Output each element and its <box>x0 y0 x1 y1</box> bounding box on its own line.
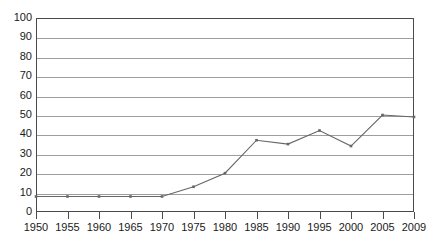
x-tick-mark <box>162 212 163 219</box>
x-tick-mark <box>36 212 37 219</box>
x-tick-mark <box>257 212 258 219</box>
x-tick-mark <box>288 212 289 219</box>
x-tick-mark <box>68 212 69 219</box>
x-tick-mark <box>225 212 226 219</box>
x-tick-mark <box>383 212 384 219</box>
x-tick-mark <box>99 212 100 219</box>
line-chart: 1009080706050403020100 19501955196019651… <box>0 0 436 244</box>
x-axis: 1950195519601965197019751980198519901995… <box>0 0 436 244</box>
x-tick-mark <box>194 212 195 219</box>
x-tick-mark <box>320 212 321 219</box>
x-tick-mark <box>351 212 352 219</box>
x-tick-mark <box>414 212 415 219</box>
x-tick-mark <box>131 212 132 219</box>
x-tick-label: 2009 <box>394 221 434 233</box>
